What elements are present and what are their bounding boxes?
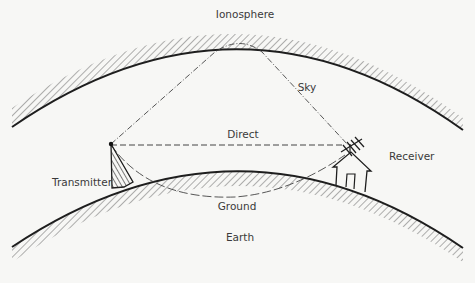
propagation-diagram: Ionosphere Sky Direct Transmitter Receiv…	[0, 0, 475, 283]
ionosphere-layer	[12, 34, 463, 130]
label-sky: Sky	[298, 81, 317, 93]
label-receiver: Receiver	[389, 150, 435, 162]
transmitter-tower-icon	[109, 142, 133, 188]
label-direct: Direct	[227, 128, 258, 140]
label-transmitter: Transmitter	[51, 176, 113, 188]
label-earth: Earth	[226, 231, 254, 243]
label-ground: Ground	[218, 200, 257, 212]
label-ionosphere: Ionosphere	[216, 8, 274, 20]
